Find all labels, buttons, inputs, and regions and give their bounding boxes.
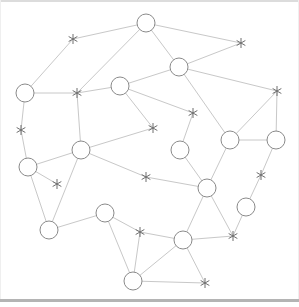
circle-node-J xyxy=(198,179,216,197)
edge-E-s9 xyxy=(81,150,146,177)
star-node-icon xyxy=(237,38,246,48)
star-node-icon xyxy=(17,125,26,135)
edge-E-s5 xyxy=(81,128,153,150)
star-node-icon xyxy=(189,108,198,118)
circle-node-G xyxy=(171,141,189,159)
circle-node-M xyxy=(40,221,58,239)
circle-node-N xyxy=(174,231,192,249)
star-node-icon xyxy=(257,170,266,180)
circle-node-K xyxy=(237,198,255,216)
circle-node-H xyxy=(221,131,239,149)
edge-O-s13 xyxy=(133,281,205,283)
circle-node-D xyxy=(111,77,129,95)
star-node-icon xyxy=(53,179,62,189)
circle-node-F xyxy=(19,158,37,176)
edge-layer xyxy=(21,23,277,283)
edge-s1-A xyxy=(73,23,146,39)
circle-node-layer xyxy=(16,14,285,290)
edge-F-M xyxy=(28,167,49,230)
circle-node-E xyxy=(72,141,90,159)
circle-node-L xyxy=(96,204,114,222)
star-node-layer xyxy=(17,34,282,288)
edge-B-s2 xyxy=(179,43,241,67)
star-node-icon xyxy=(136,227,145,237)
edge-N-O xyxy=(133,240,183,281)
frame-bottom-border xyxy=(0,299,299,302)
star-node-icon xyxy=(142,172,151,182)
edge-s1-C xyxy=(25,39,73,93)
circle-node-O xyxy=(124,272,142,290)
circle-node-B xyxy=(170,58,188,76)
edge-A-s2 xyxy=(146,23,241,43)
circle-node-A xyxy=(137,14,155,32)
network-graph-canvas xyxy=(0,0,299,307)
circle-node-C xyxy=(16,84,34,102)
circle-node-I xyxy=(267,131,285,149)
edge-L-O xyxy=(105,213,133,281)
edge-s7-H xyxy=(230,91,277,140)
edge-E-M xyxy=(49,150,81,230)
